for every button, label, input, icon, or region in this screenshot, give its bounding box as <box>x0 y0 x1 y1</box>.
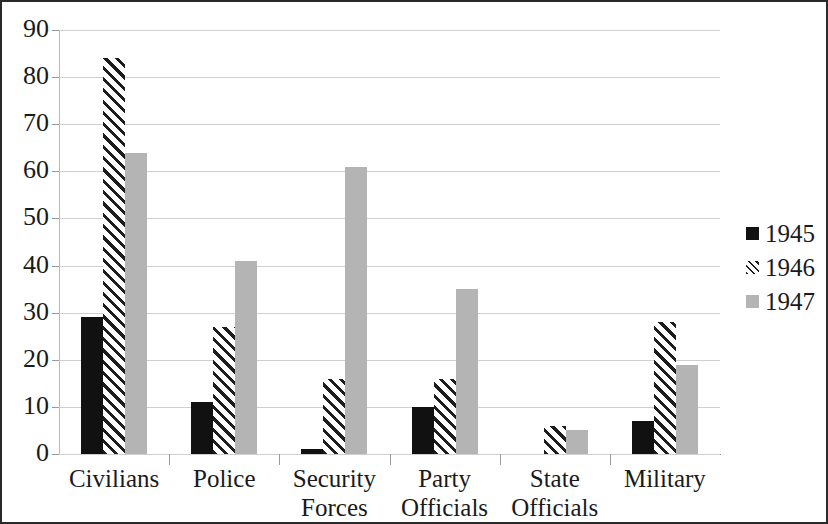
y-axis-tick-label: 40 <box>5 252 49 278</box>
gridline <box>59 171 720 172</box>
x-axis-category-label-line: Party <box>390 464 500 493</box>
plot-area <box>59 30 720 454</box>
x-axis-tick <box>169 454 170 465</box>
gridline <box>59 124 720 125</box>
x-axis-tick <box>390 454 391 465</box>
y-axis-tick <box>52 124 59 125</box>
y-axis-tick <box>52 454 59 455</box>
x-axis-tick <box>610 454 611 465</box>
bar-1946-party-officials <box>434 379 456 454</box>
x-axis-category-label-line: Civilians <box>59 464 169 493</box>
x-axis-category-label: Civilians <box>59 464 169 493</box>
y-axis-tick-label: 50 <box>5 204 49 230</box>
gridline <box>59 313 720 314</box>
bar-group <box>522 30 588 454</box>
bar-1946-police <box>213 327 235 454</box>
y-axis-tick-label: 60 <box>5 157 49 183</box>
bar-1945-party-officials <box>412 407 434 454</box>
bar-1945-military <box>632 421 654 454</box>
legend-item-label: 1946 <box>765 255 815 280</box>
x-axis-category-label: StateOfficials <box>500 464 610 522</box>
bar-1947-party-officials <box>456 289 478 454</box>
y-axis-tick <box>52 266 59 267</box>
y-axis-tick <box>52 407 59 408</box>
gridline <box>59 218 720 219</box>
bar-group <box>191 30 257 454</box>
bar-1947-security-forces <box>345 167 367 454</box>
legend-item-1947[interactable]: 1947 <box>746 284 826 318</box>
y-axis-tick <box>52 30 59 31</box>
legend-item-1945[interactable]: 1945 <box>746 216 826 250</box>
y-axis-tick-label: 30 <box>5 299 49 325</box>
x-axis-tick <box>500 454 501 465</box>
x-axis-category-label-line: State <box>500 464 610 493</box>
bar-group <box>412 30 478 454</box>
bar-1946-security-forces <box>323 379 345 454</box>
bar-1947-state-officials <box>566 430 588 454</box>
chart-legend: 194519461947 <box>746 216 826 318</box>
gridline <box>59 77 720 78</box>
bar-group <box>632 30 698 454</box>
x-axis-category-label-line: Officials <box>500 493 610 522</box>
x-axis-category-label: Police <box>169 464 279 493</box>
bar-1945-civilians <box>81 317 103 454</box>
y-axis-tick <box>52 313 59 314</box>
x-axis-category-label-line: Military <box>610 464 720 493</box>
y-axis-tick <box>52 218 59 219</box>
legend-swatch-icon <box>746 261 759 274</box>
legend-swatch-icon <box>746 295 759 308</box>
bar-group <box>81 30 147 454</box>
bar-1946-military <box>654 322 676 454</box>
bar-1946-state-officials <box>544 426 566 454</box>
y-axis-tick-label: 0 <box>5 440 49 466</box>
gridline <box>59 407 720 408</box>
y-axis-tick-label: 20 <box>5 346 49 372</box>
y-axis-tick-label: 80 <box>5 63 49 89</box>
chart-container: 0102030405060708090 CiviliansPoliceSecur… <box>0 0 828 524</box>
gridline <box>59 266 720 267</box>
x-axis-labels: CiviliansPoliceSecurityForcesPartyOffici… <box>59 464 720 524</box>
x-axis-category-label: PartyOfficials <box>390 464 500 522</box>
y-axis-tick-label: 70 <box>5 110 49 136</box>
x-axis-tick <box>279 454 280 465</box>
bar-group <box>301 30 367 454</box>
x-axis-category-label-line: Security <box>279 464 389 493</box>
y-axis-tick-label: 90 <box>5 16 49 42</box>
legend-item-label: 1947 <box>765 289 815 314</box>
y-axis-tick <box>52 77 59 78</box>
y-axis-labels: 0102030405060708090 <box>2 2 49 524</box>
bar-1945-security-forces <box>301 449 323 454</box>
legend-item-1946[interactable]: 1946 <box>746 250 826 284</box>
x-axis-category-label-line: Officials <box>390 493 500 522</box>
bar-1945-police <box>191 402 213 454</box>
y-axis-tick <box>52 360 59 361</box>
x-axis-category-label-line: Police <box>169 464 279 493</box>
y-axis-tick-label: 10 <box>5 393 49 419</box>
bar-1947-military <box>676 365 698 455</box>
x-axis-category-label: Military <box>610 464 720 493</box>
x-axis-category-label: SecurityForces <box>279 464 389 522</box>
legend-swatch-icon <box>746 227 759 240</box>
bar-1947-civilians <box>125 153 147 455</box>
gridline <box>59 30 720 31</box>
legend-item-label: 1945 <box>765 221 815 246</box>
x-axis-category-label-line: Forces <box>279 493 389 522</box>
gridline <box>59 360 720 361</box>
bar-1946-civilians <box>103 58 125 454</box>
y-axis-tick <box>52 171 59 172</box>
bar-1947-police <box>235 261 257 454</box>
